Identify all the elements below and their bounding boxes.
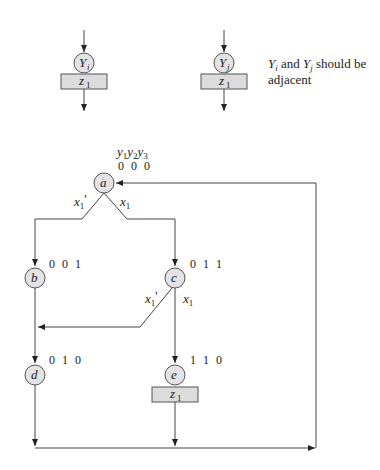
transition-a-to-b — [35, 193, 104, 266]
svg-text:0 0 1: 0 0 1 — [49, 257, 83, 271]
svg-text:1 1 0: 1 1 0 — [190, 353, 224, 367]
state-e: e 1 1 0 z 1 — [152, 353, 224, 403]
state-d: d 0 1 0 — [25, 353, 83, 385]
adjacency-note: Yi and Yj should be adjacent — [268, 56, 366, 87]
legend-state-yi: Y i z 1 — [61, 30, 107, 111]
svg-text:a: a — [100, 175, 107, 190]
svg-text:Yi and Yj should be: Yi and Yj should be — [268, 56, 366, 73]
state-diagram: Y i z 1 Y j z 1 Yi and Yj should be adja… — [0, 0, 380, 470]
state-c: c 0 1 1 — [165, 257, 224, 288]
svg-text:z: z — [78, 73, 84, 88]
return-to-a — [116, 183, 316, 448]
state-a: a 0 0 0 — [94, 159, 152, 193]
condition-x1: x1 — [182, 291, 193, 308]
svg-text:z: z — [169, 386, 175, 401]
condition-x1-prime: x1' — [144, 288, 158, 308]
svg-text:1: 1 — [86, 80, 91, 90]
condition-x1: x1 — [119, 194, 130, 211]
svg-text:j: j — [226, 62, 230, 72]
svg-text:0 0 0: 0 0 0 — [118, 159, 152, 173]
svg-text:1: 1 — [177, 393, 182, 403]
svg-text:e: e — [171, 367, 177, 382]
svg-text:1: 1 — [226, 80, 231, 90]
svg-text:0 1 1: 0 1 1 — [190, 257, 224, 271]
svg-text:0 1 0: 0 1 0 — [49, 353, 83, 367]
svg-text:adjacent: adjacent — [268, 72, 312, 87]
svg-text:b: b — [31, 270, 38, 285]
condition-x1-prime: x1' — [73, 191, 87, 211]
svg-text:z: z — [218, 73, 224, 88]
svg-text:d: d — [31, 367, 38, 382]
transition-a-to-c — [104, 193, 175, 266]
svg-text:c: c — [171, 270, 177, 285]
state-b: b 0 0 1 — [25, 257, 83, 288]
legend-state-yj: Y j z 1 — [201, 30, 247, 111]
